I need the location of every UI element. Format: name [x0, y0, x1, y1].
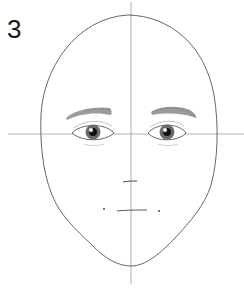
face-outline [41, 15, 217, 266]
left-eye [72, 121, 114, 145]
right-eyebrow [151, 107, 196, 118]
left-eyebrow [66, 107, 112, 120]
right-eye [148, 121, 186, 145]
mouth [103, 208, 160, 212]
face-drawing-canvas: 3 [0, 0, 244, 288]
face-sketch [0, 0, 244, 288]
nose-mark [123, 181, 137, 182]
